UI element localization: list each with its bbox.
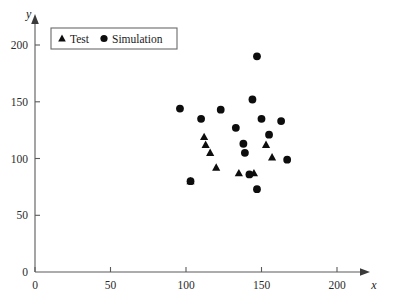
data-point-simulation: [187, 177, 195, 185]
data-point-simulation: [277, 117, 285, 125]
y-tick-label-50: 50: [17, 209, 29, 221]
data-point-simulation: [249, 96, 257, 104]
x-tick-label-0: 0: [32, 279, 38, 291]
x-tick-label-150: 150: [253, 279, 271, 291]
scatter-chart: 0 50 100 150 200 0 50 100 150 200 y x Te…: [0, 0, 393, 307]
y-tick-label-100: 100: [11, 153, 29, 165]
data-point-simulation: [197, 115, 205, 123]
x-axis-label: x: [370, 278, 377, 292]
x-tick-label-100: 100: [177, 279, 195, 291]
data-point-simulation: [176, 105, 184, 113]
data-point-simulation: [246, 170, 254, 178]
data-point-simulation: [283, 156, 291, 164]
data-point-simulation: [241, 149, 249, 157]
data-point-simulation: [253, 185, 261, 193]
y-tick-label-200: 200: [11, 39, 29, 51]
x-tick-label-200: 200: [328, 279, 346, 291]
data-point-simulation: [217, 106, 225, 114]
x-tick-label-50: 50: [105, 279, 117, 291]
data-point-simulation: [258, 115, 266, 123]
legend-circle-marker-icon: [100, 35, 107, 42]
legend-label-simulation: Simulation: [112, 33, 163, 45]
legend-label-test: Test: [70, 33, 90, 45]
data-point-simulation: [232, 124, 240, 132]
chart-legend[interactable]: Test Simulation: [51, 28, 177, 49]
data-point-simulation: [265, 131, 273, 139]
data-point-simulation: [253, 52, 261, 60]
y-axis-label: y: [25, 7, 32, 21]
data-point-simulation: [239, 140, 247, 148]
y-tick-label-0: 0: [22, 266, 28, 278]
y-tick-label-150: 150: [11, 96, 29, 108]
